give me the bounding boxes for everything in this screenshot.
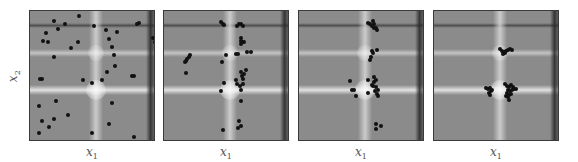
data-point [37, 131, 41, 135]
data-point [375, 48, 379, 52]
data-point [47, 125, 51, 129]
data-point [90, 131, 94, 135]
data-point [184, 71, 188, 75]
data-point [514, 87, 518, 91]
light-vertical-band [223, 11, 237, 140]
data-point [352, 88, 356, 92]
data-point [244, 68, 248, 72]
data-point [241, 24, 245, 28]
x-axis-label-base: x [355, 145, 362, 159]
data-point [224, 53, 228, 57]
data-point [107, 122, 111, 126]
panel-4 [433, 10, 559, 141]
data-point [63, 22, 67, 26]
data-point [37, 104, 41, 108]
data-point [110, 45, 114, 49]
x-axis-label-sub: 1 [497, 152, 502, 161]
data-point [132, 135, 136, 139]
data-point [69, 46, 73, 50]
data-point [249, 50, 253, 54]
data-point [236, 126, 240, 130]
data-point [104, 28, 108, 32]
data-point [46, 40, 50, 44]
dark-vertical-band [280, 11, 289, 140]
data-point [379, 124, 383, 128]
data-point [368, 58, 372, 62]
data-point [40, 77, 44, 81]
data-point [222, 23, 226, 27]
x-axis-label-2: x1 [163, 145, 289, 161]
panel-3 [298, 10, 424, 141]
light-vertical-band [89, 11, 103, 140]
x-axis-label-sub: 1 [227, 152, 232, 161]
data-point [52, 19, 56, 23]
x-axis-label-sub: 1 [362, 152, 367, 161]
x-axis-label-sub: 1 [93, 152, 98, 161]
dark-vertical-band [550, 11, 559, 140]
data-point [239, 88, 243, 92]
data-point [503, 51, 507, 55]
data-point [137, 21, 141, 25]
data-point [56, 27, 60, 31]
y-axis-label-sub: 2 [13, 70, 22, 75]
data-point [40, 119, 44, 123]
data-point [374, 122, 378, 126]
data-point [77, 14, 81, 18]
data-point [219, 89, 223, 93]
data-point [372, 26, 376, 30]
data-point [348, 79, 352, 83]
x-axis-label-base: x [490, 145, 497, 159]
light-intersection [88, 45, 104, 61]
light-vertical-band [493, 11, 507, 140]
data-point [236, 52, 240, 56]
data-point [100, 78, 104, 82]
data-point [366, 91, 370, 95]
data-point [242, 40, 246, 44]
panel-2 [163, 10, 289, 141]
data-point [66, 113, 70, 117]
y-axis-label: x2 [6, 70, 22, 82]
bright-intersection [86, 80, 106, 100]
data-point [222, 81, 226, 85]
data-point [354, 94, 358, 98]
x-axis-label-base: x [220, 145, 227, 159]
data-point [52, 55, 56, 59]
data-point [489, 89, 493, 93]
x-axis-label-4: x1 [433, 145, 559, 161]
x-axis-label-base: x [86, 145, 93, 159]
dark-vertical-band [415, 11, 424, 140]
data-point [374, 127, 378, 131]
data-point [112, 53, 116, 57]
data-point [110, 101, 114, 105]
data-point [90, 81, 94, 85]
data-point [221, 128, 225, 132]
panel-1 [29, 10, 155, 141]
data-point [54, 99, 58, 103]
data-point [241, 77, 245, 81]
y-axis-label-base: x [6, 75, 20, 82]
data-point [41, 39, 45, 43]
data-point [92, 24, 96, 28]
data-point [105, 70, 109, 74]
data-point [76, 40, 80, 44]
data-point [113, 64, 117, 68]
dark-vertical-band [146, 11, 155, 140]
data-point [107, 37, 111, 41]
data-point [376, 94, 380, 98]
data-point [153, 40, 155, 44]
data-point [81, 78, 85, 82]
data-point [237, 119, 241, 123]
data-point [115, 30, 119, 34]
x-axis-label-1: x1 [29, 145, 155, 161]
data-point [239, 99, 243, 103]
data-point [507, 98, 511, 102]
data-point [132, 74, 136, 78]
light-vertical-band [358, 11, 372, 140]
x-axis-label-3: x1 [298, 145, 424, 161]
data-point [183, 60, 187, 64]
data-point [241, 82, 245, 86]
data-point [510, 48, 514, 52]
data-point [44, 31, 48, 35]
data-point [488, 93, 492, 97]
data-point [366, 78, 370, 82]
